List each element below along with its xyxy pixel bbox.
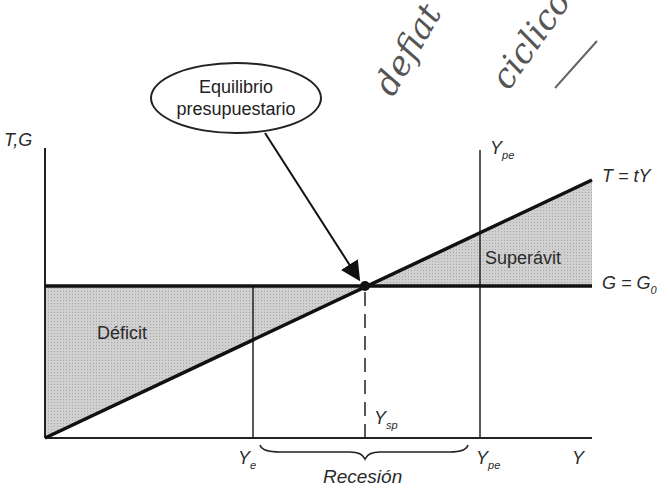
equilibrium-bubble: Equilibrio presupuestario [150, 62, 322, 134]
ype-top-label: Ype [490, 138, 514, 161]
deficit-label: Déficit [97, 323, 147, 344]
ysp-label: Ysp [374, 408, 398, 431]
ye-label: Ye [238, 448, 256, 471]
chart-canvas [0, 0, 669, 498]
recession-brace [260, 445, 468, 459]
handwritten-underline [555, 41, 597, 88]
equilibrium-point [360, 281, 370, 291]
t-line-label: T = tY [602, 166, 651, 187]
equilibrium-arrow [265, 133, 358, 278]
y-axis-label: T,G [4, 130, 32, 151]
ype-bottom-label: Ype [476, 448, 500, 471]
x-axis-label: Y [572, 448, 584, 469]
g-line-label: G = G0 [602, 273, 657, 296]
superavit-label: Superávit [485, 248, 561, 269]
recession-label: Recesión [323, 466, 402, 488]
